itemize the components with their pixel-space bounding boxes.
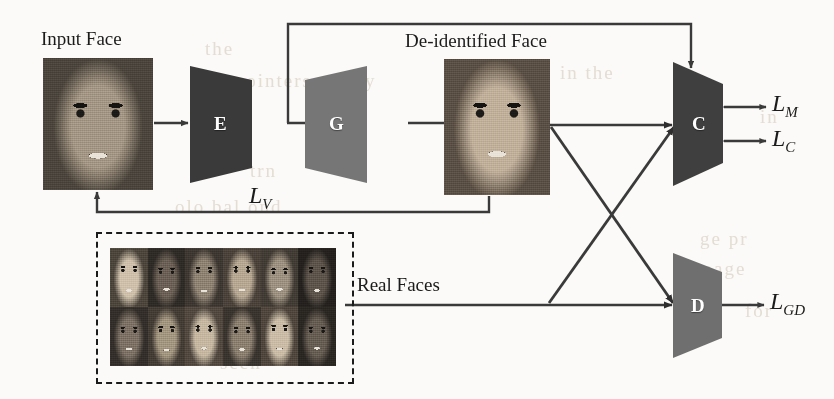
real-face-thumbnail — [261, 248, 299, 307]
loss-subscript-lc: C — [785, 139, 795, 155]
image-grain — [185, 307, 223, 366]
loss-label-lv: LV — [249, 182, 272, 213]
real-face-thumbnail — [223, 307, 261, 366]
loss-symbol-lv: L — [249, 182, 262, 208]
real-face-thumbnail — [185, 307, 223, 366]
real-face-thumbnail — [298, 248, 336, 307]
real-face-thumbnail — [261, 307, 299, 366]
loss-label-lgd: LGD — [770, 288, 805, 319]
deidentified-face-image — [444, 59, 550, 195]
image-grain — [43, 58, 153, 190]
block-letter-classifier: C — [692, 113, 706, 135]
input-face-image — [43, 58, 153, 190]
loss-subscript-lm: M — [785, 104, 798, 120]
real-faces-label: Real Faces — [357, 274, 440, 296]
image-grain — [298, 248, 336, 307]
loss-label-lm: LM — [772, 90, 798, 121]
real-face-thumbnail — [185, 248, 223, 307]
image-grain — [148, 248, 186, 307]
input-face-label: Input Face — [41, 28, 122, 50]
image-grain — [298, 307, 336, 366]
real-faces-grid — [110, 248, 336, 366]
image-grain — [444, 59, 550, 195]
real-face-thumbnail — [223, 248, 261, 307]
deidentified-face-label: De-identified Face — [405, 30, 547, 52]
wire-reconstruction-feedback — [97, 192, 489, 212]
loss-symbol-lgd: L — [770, 288, 783, 314]
real-face-thumbnail — [148, 307, 186, 366]
real-face-thumbnail — [110, 307, 148, 366]
real-face-thumbnail — [110, 248, 148, 307]
real-face-thumbnail — [298, 307, 336, 366]
image-grain — [223, 307, 261, 366]
loss-subscript-lv: V — [262, 196, 271, 212]
loss-symbol-lm: L — [772, 90, 785, 116]
image-grain — [110, 248, 148, 307]
block-letter-discriminator: D — [691, 295, 705, 317]
figure-canvas: theon pointers, delayin thege pranedtrno… — [0, 0, 834, 399]
image-grain — [185, 248, 223, 307]
image-grain — [261, 248, 299, 307]
image-grain — [223, 248, 261, 307]
real-face-thumbnail — [148, 248, 186, 307]
loss-symbol-lc: L — [772, 125, 785, 151]
block-letter-encoder: E — [214, 113, 227, 135]
block-letter-generator: G — [329, 113, 344, 135]
loss-label-lc: LC — [772, 125, 795, 156]
image-grain — [148, 307, 186, 366]
image-grain — [110, 307, 148, 366]
loss-subscript-lgd: GD — [783, 302, 805, 318]
image-grain — [261, 307, 299, 366]
